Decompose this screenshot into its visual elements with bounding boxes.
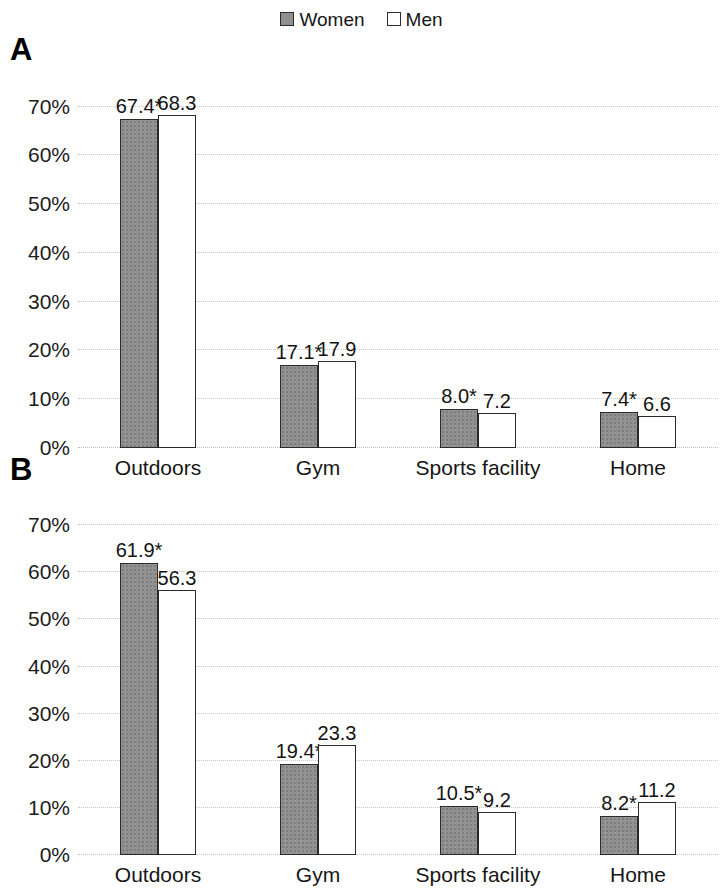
bar-group: 7.4*6.6Home: [600, 92, 676, 448]
chart-legend: Women Men: [0, 4, 723, 34]
y-axis-tick-label: 50%: [28, 607, 70, 631]
category-label: Home: [610, 864, 666, 885]
bar-value-label: 61.9*: [116, 540, 163, 560]
legend-label-men: Men: [406, 10, 443, 29]
bar-group: 10.5*9.2Sports facility: [440, 511, 516, 855]
bar-group: 17.1*17.9Gym: [280, 92, 356, 448]
bar-value-label: 17.9: [318, 339, 357, 359]
bar-women: 17.1*: [280, 365, 318, 448]
bar-women: 61.9*: [120, 563, 158, 855]
bar-value-label: 10.5*: [436, 783, 483, 803]
bar-value-label: 8.2*: [601, 793, 637, 813]
bar-men: 23.3: [318, 745, 356, 855]
y-axis-tick-label: 50%: [28, 192, 70, 216]
category-label: Outdoors: [115, 864, 201, 885]
bar-men: 7.2: [478, 413, 516, 448]
bar-men: 56.3: [158, 590, 196, 855]
y-axis-tick-label: 0%: [40, 843, 70, 867]
bar-women: 67.4*: [120, 119, 158, 448]
panel-a: A 70%60%50%40%30%20%10%0%67.4*68.3Outdoo…: [0, 34, 723, 454]
panel-a-letter: A: [10, 34, 32, 65]
y-axis-tick-label: 10%: [28, 795, 70, 819]
bar-men: 11.2: [638, 802, 676, 855]
panel-b-letter: B: [10, 454, 32, 485]
y-axis-tick-label: 20%: [28, 748, 70, 772]
bar-value-label: 19.4*: [276, 741, 323, 761]
legend-swatch-men-icon: [387, 12, 401, 26]
bar-value-label: 68.3: [158, 93, 197, 113]
bar-women: 7.4*: [600, 412, 638, 448]
legend-entry-women: Women: [280, 10, 364, 29]
bar-value-label: 56.3: [158, 568, 197, 588]
panel-b: B 70%60%50%40%30%20%10%0%61.9*56.3Outdoo…: [0, 454, 723, 888]
y-axis-tick-label: 60%: [28, 560, 70, 584]
panel-b-plot-area: 70%60%50%40%30%20%10%0%61.9*56.3Outdoors…: [78, 511, 718, 855]
y-axis-tick-label: 70%: [28, 513, 70, 537]
bar-women: 8.0*: [440, 409, 478, 448]
bar-men: 9.2: [478, 812, 516, 855]
bar-men: 17.9: [318, 361, 356, 448]
y-axis-tick-label: 40%: [28, 654, 70, 678]
y-axis-tick-label: 30%: [28, 289, 70, 313]
bar-women: 10.5*: [440, 806, 478, 855]
bar-value-label: 7.4*: [601, 389, 637, 409]
bar-value-label: 17.1*: [276, 342, 323, 362]
bar-men: 6.6: [638, 416, 676, 448]
legend-entry-men: Men: [387, 10, 443, 29]
legend-label-women: Women: [299, 10, 364, 29]
bar-value-label: 7.2: [483, 391, 511, 411]
bar-value-label: 8.0*: [441, 386, 477, 406]
panel-a-plot-area: 70%60%50%40%30%20%10%0%67.4*68.3Outdoors…: [78, 92, 718, 448]
bar-value-label: 9.2: [483, 790, 511, 810]
bar-value-label: 67.4*: [116, 96, 163, 116]
bar-women: 8.2*: [600, 816, 638, 855]
y-axis-tick-label: 30%: [28, 701, 70, 725]
bar-women: 19.4*: [280, 764, 318, 855]
y-axis-tick-label: 10%: [28, 387, 70, 411]
bar-value-label: 6.6: [643, 394, 671, 414]
bar-value-label: 23.3: [318, 723, 357, 743]
bar-group: 61.9*56.3Outdoors: [120, 511, 196, 855]
y-axis-tick-label: 20%: [28, 338, 70, 362]
category-label: Gym: [296, 864, 340, 885]
bar-group: 67.4*68.3Outdoors: [120, 92, 196, 448]
bar-men: 68.3: [158, 115, 196, 448]
figure-root: Women Men A 70%60%50%40%30%20%10%0%67.4*…: [0, 0, 723, 888]
bar-group: 8.0*7.2Sports facility: [440, 92, 516, 448]
y-axis-tick-label: 70%: [28, 94, 70, 118]
bar-value-label: 11.2: [638, 780, 675, 800]
legend-swatch-women-icon: [280, 12, 294, 26]
bar-group: 19.4*23.3Gym: [280, 511, 356, 855]
category-label: Sports facility: [416, 864, 541, 885]
y-axis-tick-label: 40%: [28, 240, 70, 264]
bar-group: 8.2*11.2Home: [600, 511, 676, 855]
y-axis-tick-label: 60%: [28, 143, 70, 167]
